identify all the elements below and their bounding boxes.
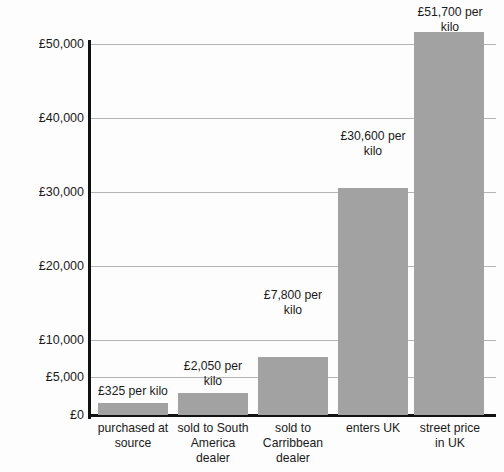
bars-layer	[0, 0, 504, 415]
x-axis-category-labels: purchased at source sold to South Americ…	[0, 421, 504, 472]
bar-label-sold-to-south-america-dealer: £2,050 per kilo	[168, 359, 258, 388]
category-line-1: sold to South	[168, 421, 258, 436]
bar-sold-to-south-america-dealer[interactable]	[178, 393, 248, 415]
category-line-2: source	[88, 436, 178, 451]
category-line-3: dealer	[168, 451, 258, 466]
category-line-2: in UK	[404, 436, 496, 451]
category-line-3: dealer	[248, 451, 338, 466]
category-street-price-in-uk: street price in UK	[404, 421, 496, 451]
category-line-2: America	[168, 436, 258, 451]
bar-sold-to-carribbean-dealer[interactable]	[258, 357, 328, 415]
category-sold-to-carribbean-dealer: sold to Carribbean dealer	[248, 421, 338, 465]
category-line-1: purchased at	[88, 421, 178, 436]
bar-label-sold-to-carribbean-dealer: £7,800 per kilo	[248, 288, 338, 317]
category-line-1: street price	[404, 421, 496, 436]
category-sold-to-south-america-dealer: sold to South America dealer	[168, 421, 258, 465]
category-line-2: Carribbean	[248, 436, 338, 451]
category-line-1: sold to	[248, 421, 338, 436]
bar-label-street-price-in-uk: £51,700 per kilo	[404, 5, 496, 34]
bar-purchased-at-source[interactable]	[98, 403, 168, 415]
bar-label-enters-uk: £30,600 per kilo	[328, 129, 418, 158]
bar-enters-uk[interactable]	[338, 188, 408, 415]
bar-street-price-in-uk[interactable]	[414, 32, 484, 415]
bar-chart: PRICE IN BRITISH POUND STERLING £50,000 …	[0, 0, 504, 472]
category-purchased-at-source: purchased at source	[88, 421, 178, 451]
